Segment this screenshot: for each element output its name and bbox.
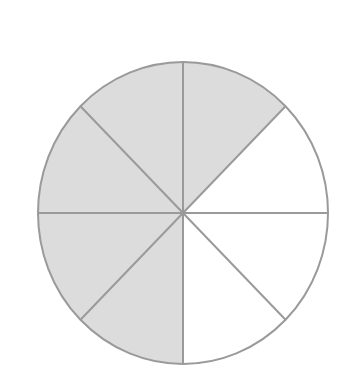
fraction-circle-svg (0, 0, 352, 390)
fraction-circle-diagram: 5/8 (0, 0, 352, 390)
sector-dividers (38, 62, 328, 364)
